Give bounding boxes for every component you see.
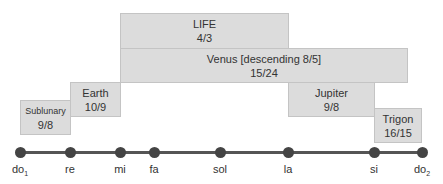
box-trigon-ratio: 16/15 bbox=[384, 126, 412, 140]
box-venus-ratio: 15/24 bbox=[250, 66, 278, 80]
box-venus: Venus [descending 8/5] 15/24 bbox=[120, 48, 408, 83]
note-base: do bbox=[414, 163, 426, 175]
note-label-do2: do2 bbox=[402, 163, 442, 177]
box-jupiter-name: Jupiter bbox=[315, 86, 348, 100]
note-base: si bbox=[370, 163, 378, 175]
box-jupiter: Jupiter 9/8 bbox=[288, 82, 375, 117]
box-jupiter-ratio: 9/8 bbox=[324, 100, 339, 114]
box-sublunary-ratio: 9/8 bbox=[38, 118, 53, 132]
box-earth: Earth 10/9 bbox=[70, 82, 121, 117]
note-label-si: si bbox=[354, 163, 394, 175]
note-label-do1: do1 bbox=[0, 163, 40, 177]
note-label-sol: sol bbox=[200, 163, 240, 175]
note-dot-la bbox=[283, 147, 294, 158]
box-venus-name: Venus [descending 8/5] bbox=[207, 52, 321, 66]
box-trigon-name: Trigon bbox=[383, 112, 414, 126]
note-dot-mi bbox=[115, 147, 126, 158]
note-base: mi bbox=[114, 163, 126, 175]
note-dot-do2 bbox=[417, 147, 428, 158]
note-label-fa: fa bbox=[134, 163, 174, 175]
note-base: do bbox=[12, 163, 24, 175]
note-dot-sol bbox=[215, 147, 226, 158]
note-dot-re bbox=[65, 147, 76, 158]
note-dot-si bbox=[369, 147, 380, 158]
note-base: fa bbox=[149, 163, 158, 175]
note-dot-do1 bbox=[15, 147, 26, 158]
note-base: re bbox=[65, 163, 75, 175]
note-label-re: re bbox=[50, 163, 90, 175]
note-base: sol bbox=[213, 163, 227, 175]
note-sub: 1 bbox=[24, 170, 28, 177]
note-sub: 2 bbox=[426, 170, 430, 177]
box-life: LIFE 4/3 bbox=[120, 13, 289, 49]
box-life-name: LIFE bbox=[193, 17, 216, 31]
box-earth-name: Earth bbox=[82, 86, 108, 100]
box-life-ratio: 4/3 bbox=[197, 31, 212, 45]
box-sublunary: Sublunary 9/8 bbox=[20, 100, 71, 135]
box-sublunary-name: Sublunary bbox=[25, 104, 66, 118]
note-base: la bbox=[284, 163, 293, 175]
box-trigon: Trigon 16/15 bbox=[374, 108, 422, 143]
note-dot-fa bbox=[149, 147, 160, 158]
box-earth-ratio: 10/9 bbox=[85, 100, 106, 114]
note-label-la: la bbox=[268, 163, 308, 175]
